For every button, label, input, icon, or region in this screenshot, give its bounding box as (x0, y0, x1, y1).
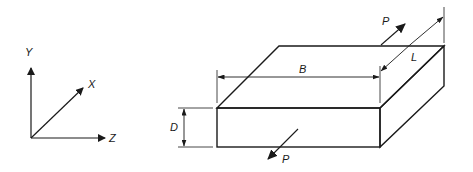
dimension-l-label: L (411, 51, 417, 63)
dimension-d: D (170, 108, 213, 147)
load-arrow-back (381, 24, 405, 45)
load-back-label: P (382, 15, 390, 27)
x-axis-label: X (87, 78, 96, 90)
block-diagram: Y X Z B L D P P (0, 0, 473, 172)
load-front-label: P (282, 153, 290, 165)
load-back: P (381, 15, 405, 45)
coordinate-axes: Y X Z (25, 46, 117, 144)
l-arrow-front (381, 44, 411, 71)
block-front-face (217, 108, 380, 147)
y-axis-label: Y (25, 46, 33, 58)
l-arrow-back (411, 17, 443, 44)
block (217, 46, 444, 147)
x-axis-arrow (31, 88, 83, 138)
dimension-l: L (381, 7, 444, 71)
dimension-d-label: D (170, 121, 178, 133)
dimension-b-label: B (299, 63, 306, 75)
z-axis-label: Z (108, 132, 117, 144)
